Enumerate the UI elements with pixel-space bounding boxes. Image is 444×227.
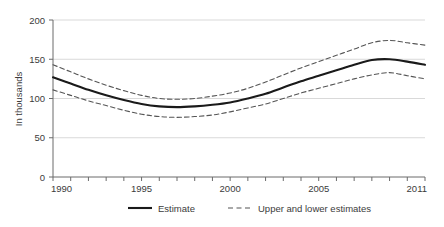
y-tick-label-50: 50	[34, 132, 45, 143]
x-tick-label-1995: 1995	[131, 183, 152, 194]
x-tick-label-2011: 2011	[407, 183, 427, 194]
y-tick-label-100: 100	[29, 93, 45, 104]
y-tick-label-0: 0	[40, 172, 45, 183]
x-tick-label-2000: 2000	[220, 183, 241, 194]
y-tick-label-150: 150	[29, 54, 45, 65]
chart-figure: 050100150200 19901995200020052011 In tho…	[0, 0, 444, 227]
legend-label-estimate: Estimate	[158, 203, 195, 214]
y-axis-title: In thousands	[13, 72, 24, 127]
x-tick-label-1990: 1990	[51, 183, 72, 194]
legend-label-bounds: Upper and lower estimates	[258, 203, 371, 214]
line-chart: 050100150200 19901995200020052011 In tho…	[0, 0, 444, 227]
x-tick-label-2005: 2005	[308, 183, 329, 194]
y-tick-label-200: 200	[29, 15, 45, 26]
